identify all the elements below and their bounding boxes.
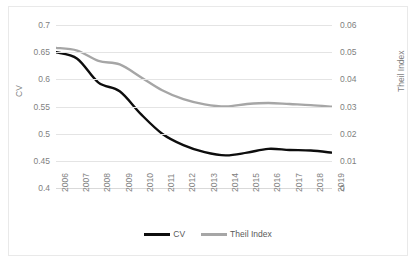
x-axis-tick-label: 2010 (145, 173, 155, 192)
x-axis-tick-label: 2013 (209, 173, 219, 192)
gridline (56, 107, 332, 108)
plot-area (56, 25, 332, 188)
series-line-theil-index (56, 48, 332, 107)
left-axis-tick-label: 0.5 (10, 130, 50, 138)
x-axis-tick-label: 2015 (251, 173, 261, 192)
x-axis-tick-label: 2019 (336, 173, 346, 192)
left-axis-tick-label: 0.6 (10, 75, 50, 83)
x-axis-tick-label: 2016 (272, 173, 282, 192)
right-axis-tick-label: 0.02 (340, 130, 380, 138)
legend-item[interactable]: CV (144, 230, 185, 239)
x-axis-tick-label: 2012 (187, 173, 197, 192)
right-axis-tick-label: 0 (340, 184, 380, 192)
left-axis-tick-label: 0.45 (10, 157, 50, 165)
right-axis-tick-label: 0.05 (340, 48, 380, 56)
gridline (56, 161, 332, 162)
x-axis-tick-label: 2011 (166, 174, 176, 192)
gridline (56, 52, 332, 53)
legend-swatch (144, 233, 170, 236)
gridline (56, 25, 332, 26)
left-axis-tick-label: 0.4 (10, 184, 50, 192)
x-axis-tick-label: 2009 (124, 173, 134, 192)
right-axis-tick-label: 0.03 (340, 103, 380, 111)
legend-label: Theil Index (230, 230, 272, 239)
x-axis-tick-label: 2014 (230, 173, 240, 192)
left-axis-tick-label: 0.65 (10, 48, 50, 56)
x-axis-tick-label: 2017 (294, 173, 304, 192)
chart-legend: CVTheil Index (0, 230, 416, 239)
right-axis-title: Theil Index (396, 50, 406, 92)
legend-swatch (201, 233, 227, 236)
x-axis-tick-label: 2006 (60, 173, 70, 192)
legend-item[interactable]: Theil Index (201, 230, 272, 239)
left-axis-title: CV (14, 85, 24, 97)
x-axis-tick-label: 2007 (81, 173, 91, 192)
left-axis-tick-label: 0.7 (10, 21, 50, 29)
left-axis-tick-label: 0.55 (10, 103, 50, 111)
gridline (56, 134, 332, 135)
x-axis-tick-label: 2018 (315, 173, 325, 192)
chart-figure: 0.40.450.50.550.60.650.7 00.010.020.030.… (0, 0, 416, 263)
gridline (56, 79, 332, 80)
right-axis-tick-label: 0.04 (340, 75, 380, 83)
right-axis-tick-label: 0.01 (340, 157, 380, 165)
right-axis-tick-label: 0.06 (340, 21, 380, 29)
legend-label: CV (173, 230, 185, 239)
x-axis-tick-label: 2008 (102, 173, 112, 192)
